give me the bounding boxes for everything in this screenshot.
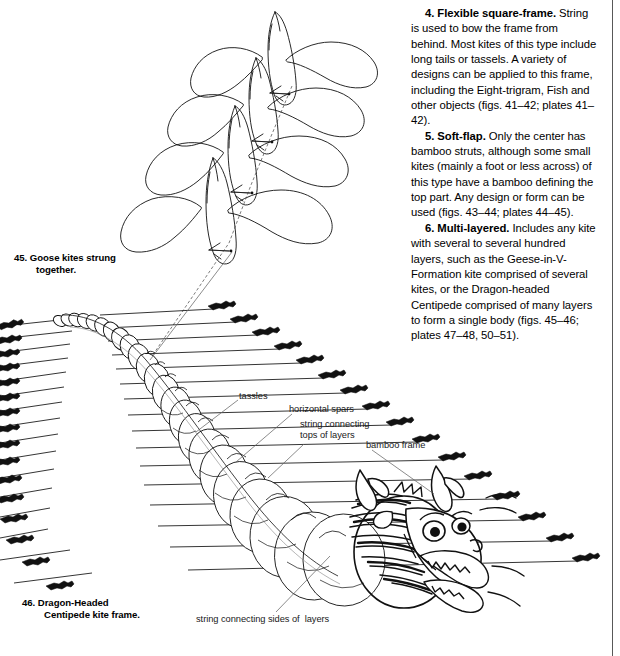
figure-number-45: 45. (14, 252, 27, 263)
paragraph-item-6: 6. Multi-layered. Includes any kite with… (411, 221, 597, 344)
annotation-tassles: tassles (239, 391, 268, 402)
figure-caption-45-line1: Goose kites strung (30, 252, 116, 263)
figure-caption-46-line1: Dragon-Headed (38, 597, 109, 608)
annotation-bamboo-frame: bamboo frame (366, 440, 425, 451)
paragraph-body-4: String is used to bow the frame from beh… (411, 7, 596, 126)
paragraph-lead-5: 5. Soft-flap. (425, 130, 486, 142)
figure-caption-46-line2: Centipede kite frame. (22, 609, 182, 621)
paragraph-lead-6: 6. Multi-layered. (425, 222, 509, 234)
annotation-horizontal-spars: horizontal spars (289, 404, 354, 415)
paragraph-body-5: Only the center has bamboo struts, altho… (411, 130, 593, 219)
page-edge-rule (612, 0, 613, 656)
paragraph-lead-4: 4. Flexible square-frame. (425, 7, 556, 19)
figure-number-46: 46. (22, 597, 35, 608)
annotation-string-connecting-tops-of-layers: string connecting tops of layers (300, 419, 369, 442)
paragraph-item-4: 4. Flexible square-frame. String is used… (411, 6, 597, 129)
paragraph-body-6: Includes any kite with several to severa… (411, 222, 596, 341)
paragraph-item-5: 5. Soft-flap. Only the center has bamboo… (411, 129, 597, 221)
figure-caption-45-line2: together. (14, 264, 154, 276)
annotation-string-connecting-sides-of-layers: string connecting sides of layers (196, 614, 329, 625)
book-page: 4. Flexible square-frame. String is used… (0, 0, 620, 656)
figure-caption-46: 46. Dragon-Headed Centipede kite frame. (22, 597, 182, 621)
body-text-column: 4. Flexible square-frame. String is used… (411, 6, 597, 344)
figure-caption-45: 45. Goose kites strung together. (14, 252, 154, 276)
